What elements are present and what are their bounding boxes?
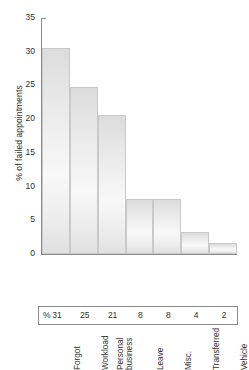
y-axis-tick-label: 5 [0, 215, 35, 224]
x-axis-label-cell: Workload [70, 255, 98, 303]
x-axis-label: Personalbusiness [116, 324, 134, 370]
x-axis-label-line: Personal [116, 338, 125, 370]
y-axis-tick-label: 25 [0, 80, 35, 89]
x-axis-label: Leave [156, 324, 165, 370]
bar [153, 199, 181, 254]
x-axis-label-line: Leave [156, 348, 165, 370]
y-axis-tick-label: 20 [0, 114, 35, 123]
bar [126, 199, 154, 254]
x-axis-label-line: business [125, 324, 134, 370]
value-table-cell: 21 [99, 307, 127, 324]
x-axis-label: Workload [101, 324, 110, 370]
x-axis-label-line: Workload [101, 336, 110, 370]
bar [209, 243, 237, 254]
value-table-cell: 8 [154, 307, 182, 324]
value-table-cell: 31 [43, 307, 71, 324]
x-axis-label-line: Transferred [212, 328, 221, 370]
x-axis-label: Vehicle [240, 324, 249, 370]
x-axis-label-cell: Transferred [181, 255, 209, 303]
x-axis-label-line: Forgot [73, 346, 82, 370]
value-table-cell: 25 [71, 307, 99, 324]
bar [42, 48, 70, 254]
plot-area [42, 18, 237, 254]
bar [98, 115, 126, 254]
x-axis-label-line: Vehicle [240, 344, 249, 370]
x-axis-labels: ForgotWorkloadPersonalbusinessLeaveMisc.… [42, 255, 237, 303]
value-table-cell: 4 [182, 307, 210, 324]
x-axis-label: Transferred [212, 324, 221, 370]
y-axis-title: % of failed appointments [14, 38, 24, 228]
y-axis-tick-label: 15 [0, 148, 35, 157]
x-axis-label: Misc. [184, 324, 193, 370]
y-axis-tick-label: 35 [0, 13, 35, 22]
x-axis-label-cell: Personalbusiness [98, 255, 126, 303]
bar [181, 232, 209, 254]
value-table-cell: 8 [127, 307, 155, 324]
x-axis-label-cell: Vehicle [209, 255, 237, 303]
y-axis-tick-label: 30 [0, 47, 35, 56]
y-axis-tick-label: 10 [0, 182, 35, 191]
bar [70, 87, 98, 254]
x-axis-label-line: Misc. [184, 351, 193, 370]
x-axis-label: Forgot [73, 324, 82, 370]
y-axis-tick-label: 0 [0, 249, 35, 258]
x-axis-label-cell: Misc. [153, 255, 181, 303]
x-axis-label-cell: Forgot [42, 255, 70, 303]
value-table-cell: 2 [210, 307, 238, 324]
value-table: % 3125218842 [38, 306, 238, 325]
x-axis-label-cell: Leave [126, 255, 154, 303]
